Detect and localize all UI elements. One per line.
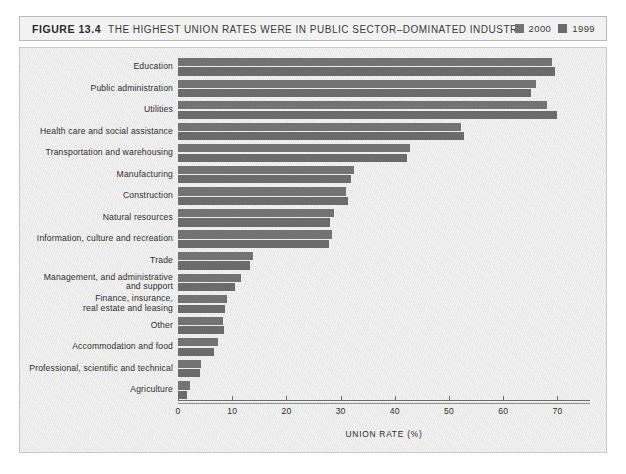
bar-1999 bbox=[178, 197, 348, 205]
bar-1999 bbox=[178, 369, 200, 377]
x-axis-tick bbox=[232, 396, 233, 401]
bar-1999 bbox=[178, 67, 555, 75]
x-axis-tick-label: 50 bbox=[444, 406, 454, 416]
legend-swatch-1999 bbox=[558, 24, 567, 33]
bar-1999 bbox=[178, 154, 407, 162]
figure-container: FIGURE 13.4 THE HIGHEST UNION RATES WERE… bbox=[0, 0, 626, 474]
figure-title: THE HIGHEST UNION RATES WERE IN PUBLIC S… bbox=[108, 24, 514, 35]
bar-2000 bbox=[178, 317, 223, 325]
category-label: Trade bbox=[150, 256, 173, 266]
category-label: Education bbox=[133, 62, 173, 72]
bar-2000 bbox=[178, 101, 547, 109]
bar-2000 bbox=[178, 123, 461, 131]
bar-1999 bbox=[178, 175, 351, 183]
x-axis-baseline bbox=[178, 403, 590, 404]
category-axis-labels: EducationPublic administrationUtilitiesH… bbox=[20, 48, 177, 393]
x-axis-tick-label: 70 bbox=[552, 406, 562, 416]
x-axis-tick bbox=[178, 396, 179, 401]
bar-2000 bbox=[178, 80, 536, 88]
x-axis-tick-label: 20 bbox=[281, 406, 291, 416]
category-label: Transportation and warehousing bbox=[46, 148, 173, 158]
legend-item-2000: 2000 bbox=[515, 23, 552, 34]
x-axis-line bbox=[178, 400, 590, 401]
bar-2000 bbox=[178, 209, 334, 217]
x-axis-tick-label: 60 bbox=[498, 406, 508, 416]
x-axis-tick bbox=[449, 396, 450, 401]
bar-2000 bbox=[178, 381, 190, 389]
bar-2000 bbox=[178, 144, 410, 152]
x-axis-title: UNION RATE (%) bbox=[178, 429, 590, 439]
x-axis-tick bbox=[395, 396, 396, 401]
bars-container bbox=[178, 48, 590, 393]
figure-title-bar: FIGURE 13.4 THE HIGHEST UNION RATES WERE… bbox=[19, 16, 607, 41]
bar-2000 bbox=[178, 295, 227, 303]
category-label: Management, and administrative and suppo… bbox=[44, 273, 173, 292]
bar-2000 bbox=[178, 338, 218, 346]
bar-1999 bbox=[178, 391, 187, 399]
x-axis-tick-label: 10 bbox=[227, 406, 237, 416]
bar-1999 bbox=[178, 132, 464, 140]
x-axis-tick-label: 0 bbox=[176, 406, 181, 416]
category-label: Information, culture and recreation bbox=[37, 234, 173, 244]
chart-plot-inner: EducationPublic administrationUtilitiesH… bbox=[20, 48, 606, 452]
figure-number: FIGURE 13.4 bbox=[32, 23, 101, 35]
category-label: Construction bbox=[123, 191, 173, 201]
category-label: Agriculture bbox=[130, 385, 173, 395]
bar-1999 bbox=[178, 261, 250, 269]
category-label: Professional, scientific and technical bbox=[29, 364, 173, 374]
category-label: Other bbox=[151, 321, 173, 331]
x-axis-tick-label: 30 bbox=[336, 406, 346, 416]
bar-1999 bbox=[178, 283, 235, 291]
legend-label-2000: 2000 bbox=[529, 23, 552, 34]
chart-plot-area: EducationPublic administrationUtilitiesH… bbox=[19, 47, 607, 453]
x-axis-tick bbox=[286, 396, 287, 401]
category-label: Manufacturing bbox=[117, 170, 173, 180]
category-label: Public administration bbox=[91, 84, 173, 94]
bar-2000 bbox=[178, 166, 354, 174]
x-axis-tick bbox=[341, 396, 342, 401]
bar-2000 bbox=[178, 252, 253, 260]
legend-label-1999: 1999 bbox=[572, 23, 595, 34]
bar-1999 bbox=[178, 348, 214, 356]
category-label: Utilities bbox=[144, 105, 173, 115]
bar-2000 bbox=[178, 274, 241, 282]
bar-1999 bbox=[178, 218, 330, 226]
bar-1999 bbox=[178, 240, 329, 248]
figure-title-group: FIGURE 13.4 THE HIGHEST UNION RATES WERE… bbox=[32, 23, 515, 35]
legend-swatch-2000 bbox=[515, 24, 524, 33]
bar-2000 bbox=[178, 187, 346, 195]
bar-2000 bbox=[178, 230, 332, 238]
bar-1999 bbox=[178, 326, 224, 334]
bar-1999 bbox=[178, 305, 225, 313]
category-label: Health care and social assistance bbox=[40, 127, 173, 137]
x-axis-tick-label: 40 bbox=[390, 406, 400, 416]
bar-1999 bbox=[178, 111, 557, 119]
chart-legend: 2000 1999 bbox=[515, 23, 598, 34]
x-axis-tick bbox=[557, 396, 558, 401]
category-label: Natural resources bbox=[103, 213, 173, 223]
category-label: Finance, insurance, real estate and leas… bbox=[83, 294, 173, 313]
category-label: Accommodation and food bbox=[72, 342, 173, 352]
x-axis-tick bbox=[503, 396, 504, 401]
bar-2000 bbox=[178, 58, 552, 66]
bar-1999 bbox=[178, 89, 531, 97]
bar-2000 bbox=[178, 360, 201, 368]
legend-item-1999: 1999 bbox=[558, 23, 595, 34]
